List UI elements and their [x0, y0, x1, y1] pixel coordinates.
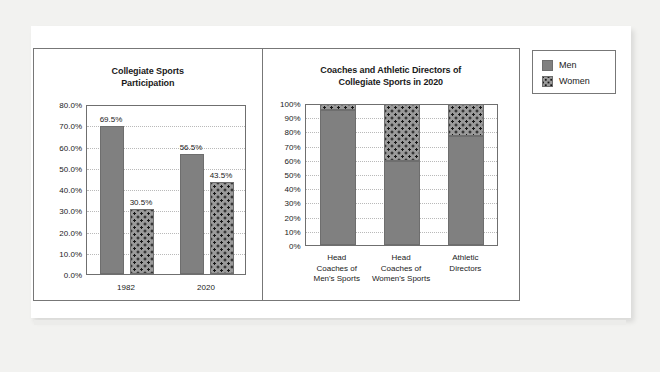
y-tick-label: 10%: [285, 227, 301, 236]
y-tick-label: 30%: [285, 199, 301, 208]
y-tick-label: 100%: [280, 100, 300, 109]
x-category-line: Directors: [449, 264, 481, 275]
chart-legend: Men Women: [532, 50, 616, 94]
bar-value-label: 69.5%: [100, 115, 123, 124]
page-shadow-band: [34, 320, 626, 325]
bar-men-1982: [100, 126, 124, 274]
y-tick-label: 70.0%: [59, 122, 82, 131]
x-category-label: 1982: [117, 283, 135, 294]
stacked-bar-women-2: [448, 104, 484, 136]
y-tick-label: 0%: [289, 242, 301, 251]
bar-men-2020: [180, 154, 204, 274]
chart-title-line-2: Collegiate Sports in 2020: [263, 76, 519, 88]
x-category-line: Athletic: [449, 253, 481, 264]
chart-title-coaches: Coaches and Athletic Directors of Colleg…: [263, 64, 519, 88]
chart-title-line-1: Coaches and Athletic Directors of: [263, 64, 519, 76]
plot-area-participation: [86, 105, 246, 275]
x-category-line: Head: [313, 253, 359, 264]
bar-value-label: 30.5%: [130, 198, 153, 207]
y-axis-coaches: 0%10%20%30%40%50%60%70%80%90%100%: [263, 49, 301, 300]
y-tick-label: 60.0%: [59, 143, 82, 152]
y-tick-label: 30.0%: [59, 207, 82, 216]
x-category-label: HeadCoaches ofWomen's Sports: [372, 253, 430, 285]
bar-women-1982: [130, 209, 154, 274]
y-tick-label: 50%: [285, 171, 301, 180]
x-category-line: Coaches of: [313, 264, 359, 275]
chart-panel-participation: Collegiate Sports Participation 0.0%10.0…: [34, 49, 263, 300]
y-tick-label: 70%: [285, 142, 301, 151]
y-tick-label: 50.0%: [59, 164, 82, 173]
y-axis-participation: 0.0%10.0%20.0%30.0%40.0%50.0%60.0%70.0%8…: [34, 49, 82, 300]
x-category-label: 2020: [197, 283, 215, 294]
gridline: [87, 105, 245, 106]
x-category-line: Men's Sports: [313, 274, 359, 285]
y-tick-label: 60%: [285, 156, 301, 165]
bar-value-label: 56.5%: [180, 143, 203, 152]
stacked-bar-men-2: [448, 136, 484, 245]
y-tick-label: 0.0%: [64, 271, 82, 280]
x-category-label: AthleticDirectors: [449, 253, 481, 274]
x-category-line: Head: [372, 253, 430, 264]
stacked-bar-men-1: [384, 161, 420, 245]
y-tick-label: 40.0%: [59, 186, 82, 195]
y-tick-label: 80%: [285, 128, 301, 137]
stacked-bar-women-1: [384, 104, 420, 161]
legend-item-women: Women: [542, 73, 615, 89]
bar-value-label: 43.5%: [210, 171, 233, 180]
y-tick-label: 10.0%: [59, 249, 82, 258]
plot-area-coaches: [305, 104, 498, 246]
bar-women-2020: [210, 182, 234, 274]
x-category-label: HeadCoaches ofMen's Sports: [313, 253, 359, 285]
x-category-line: Women's Sports: [372, 274, 430, 285]
y-tick-label: 20.0%: [59, 228, 82, 237]
legend-label-women: Women: [559, 76, 590, 86]
y-tick-label: 90%: [285, 114, 301, 123]
stacked-bar-men-0: [320, 110, 356, 245]
figure-container: Collegiate Sports Participation 0.0%10.0…: [33, 48, 520, 301]
x-category-line: Coaches of: [372, 264, 430, 275]
solid-gray-swatch-icon: [542, 60, 553, 71]
y-tick-label: 20%: [285, 213, 301, 222]
legend-item-men: Men: [542, 57, 615, 73]
stacked-bar-women-0: [320, 104, 356, 110]
y-tick-label: 80.0%: [59, 101, 82, 110]
legend-label-men: Men: [559, 60, 577, 70]
y-tick-label: 40%: [285, 185, 301, 194]
chart-panel-coaches: Coaches and Athletic Directors of Colleg…: [263, 49, 519, 300]
dotted-gray-swatch-icon: [542, 76, 553, 87]
